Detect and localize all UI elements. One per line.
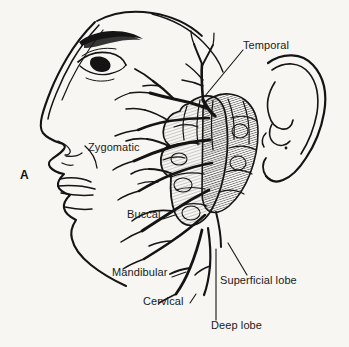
- zygomatic-branch: [115, 130, 138, 136]
- cervical-branch: [176, 230, 202, 294]
- label-temporal: Temporal: [243, 40, 289, 51]
- temporal-branch: [202, 45, 213, 66]
- mouth-line: [58, 186, 95, 189]
- label-buccal: Buccal: [127, 209, 161, 220]
- buccal-branch: [113, 161, 134, 170]
- chin-crease: [65, 207, 92, 209]
- label-superficial-lobe: Superficial lobe: [220, 275, 297, 286]
- zygomatic-branch: [143, 85, 160, 86]
- buccal-branch: [118, 191, 139, 200]
- temporal-branch: [194, 44, 202, 64]
- ear-auricle: [262, 55, 325, 181]
- cervical-branch: [204, 228, 210, 295]
- temporal-branch: [202, 64, 203, 100]
- cervical-branch: [195, 266, 210, 275]
- anatomical-figure: A Temporal Zygomatic Buccal Mandibular C…: [0, 0, 349, 347]
- mandibular-branch: [121, 231, 142, 242]
- parotid-gland: [161, 94, 258, 226]
- upper-lip: [60, 178, 91, 182]
- lobule: [263, 158, 266, 176]
- temporal-branch: [182, 80, 203, 86]
- tragus: [262, 133, 266, 147]
- concha: [270, 124, 290, 145]
- zygomatic-branch: [126, 108, 145, 110]
- cervical-leader: [190, 294, 196, 303]
- temporal-leader: [205, 50, 243, 96]
- zygomatic-branch: [135, 69, 153, 81]
- antihelix: [268, 82, 293, 129]
- philtrum: [62, 163, 73, 165]
- panel-letter-a: A: [20, 168, 29, 182]
- zygomatic-branch: [130, 92, 150, 93]
- label-cervical: Cervical: [143, 296, 184, 307]
- eye: [78, 48, 126, 81]
- superficial-lobe-leader: [228, 243, 247, 275]
- zygomatic-branch: [115, 93, 130, 100]
- temporal-branch: [213, 33, 214, 45]
- label-mandibular: Mandibular: [112, 267, 167, 278]
- label-deep-lobe: Deep lobe: [211, 320, 262, 331]
- zygomatic-branch: [145, 110, 169, 121]
- label-zygomatic: Zygomatic: [88, 142, 140, 153]
- iris: [90, 57, 111, 72]
- ear-detail-dot: [285, 147, 288, 150]
- helix-inner: [272, 64, 318, 154]
- buccal-branch: [131, 169, 149, 174]
- face-silhouette: [41, 22, 126, 286]
- posterior-nerve-branch: [216, 212, 221, 247]
- lower-lid-shadow: [86, 78, 114, 81]
- lower-lip: [61, 193, 93, 195]
- hairline: [152, 14, 223, 72]
- eyebrow: [79, 31, 143, 48]
